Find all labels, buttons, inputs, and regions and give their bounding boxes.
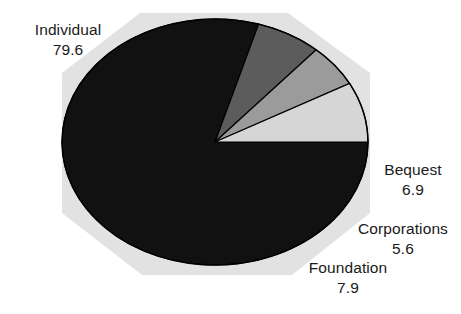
- pie-label-foundation-value: 7.9: [293, 278, 403, 298]
- pie-label-corporations-value: 5.6: [345, 239, 461, 259]
- pie-chart-figure: Individual 79.6 Bequest 6.9 Corporations…: [0, 0, 461, 314]
- pie-label-individual: Individual 79.6: [8, 20, 128, 60]
- pie-label-individual-name: Individual: [8, 20, 128, 40]
- pie-label-corporations-name: Corporations: [345, 219, 461, 239]
- pie-label-bequest-value: 6.9: [368, 180, 458, 200]
- pie-label-foundation: Foundation 7.9: [293, 258, 403, 298]
- pie-label-individual-value: 79.6: [8, 40, 128, 60]
- pie-label-bequest: Bequest 6.9: [368, 160, 458, 200]
- pie-label-corporations: Corporations 5.6: [345, 219, 461, 259]
- pie-label-foundation-name: Foundation: [293, 258, 403, 278]
- pie-label-bequest-name: Bequest: [368, 160, 458, 180]
